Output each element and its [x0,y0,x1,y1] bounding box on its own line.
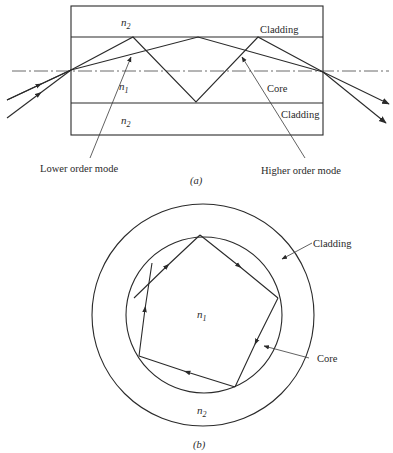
n2-bottom-label: n2 [121,114,131,129]
skew-ray-segment-1 [134,235,200,298]
skew-ray-segment-2 [200,235,278,298]
cladding-top-label: Cladding [260,24,299,35]
skew-ray-segment-3 [235,298,278,387]
optical-fiber-diagram: n2 n1 n2 Cladding Core Cladding Lower or… [0,0,393,453]
n1-label: n1 [119,80,129,95]
core-label-b: Core [317,353,338,364]
cladding-bottom-label: Cladding [281,109,320,120]
core-label: Core [267,83,288,94]
lower-order-mode-ray [71,37,323,72]
skew-ray-segment-4 [139,356,235,387]
figure-a-planar-waveguide: n2 n1 n2 Cladding Core Cladding Lower or… [7,6,389,187]
lower-order-mode-label: Lower order mode [40,163,118,174]
input-ray-higher-order [7,70,71,118]
input-ray-lower-order-arrow [7,70,71,100]
figure-b-caption: (b) [193,439,206,451]
skew-ray-segment-5 [139,263,152,356]
n1-label-b: n1 [197,308,207,323]
figure-b-fiber-cross-section: Cladding Core n1 n2 (b) [92,204,352,451]
higher-order-leader-arrow [242,57,305,158]
n2-label-b: n2 [197,404,207,419]
cladding-label: Cladding [313,238,352,249]
lower-order-leader-arrow [90,57,131,158]
higher-order-mode-label: Higher order mode [261,165,341,176]
figure-a-caption: (a) [190,175,203,187]
n2-top-label: n2 [121,16,131,31]
